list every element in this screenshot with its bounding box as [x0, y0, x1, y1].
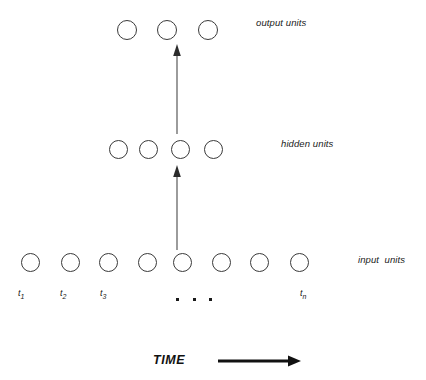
input-unit-7 [250, 253, 269, 272]
time-step-label-t1: t1 [18, 288, 24, 300]
ellipsis-dot-2 [193, 298, 196, 301]
time-step-label-t2: t2 [60, 288, 66, 300]
time-step-label-tn: tn [300, 288, 306, 300]
input-unit-5 [173, 253, 192, 272]
input-unit-1 [21, 253, 40, 272]
arrow-hidden-to-output [173, 44, 181, 134]
time-direction-arrow-icon [218, 356, 301, 367]
input-layer-label: input units [358, 254, 405, 265]
hidden-unit-4 [204, 140, 223, 159]
t3-subscript: 3 [103, 293, 107, 300]
arrows-overlay [0, 0, 426, 380]
hidden-unit-3 [171, 140, 190, 159]
t1-subscript: 1 [21, 293, 25, 300]
ellipsis-dot-3 [209, 298, 212, 301]
output-layer-label: output units [256, 17, 306, 28]
input-unit-3 [99, 253, 118, 272]
input-unit-8 [290, 253, 309, 272]
time-step-label-t3: t3 [100, 288, 106, 300]
t2-subscript: 2 [63, 293, 67, 300]
input-unit-2 [61, 253, 80, 272]
time-axis-label: TIME [153, 353, 185, 367]
hidden-layer-label: hidden units [281, 138, 333, 149]
input-unit-4 [138, 253, 157, 272]
tn-subscript: n [303, 293, 307, 300]
output-unit-1 [117, 20, 137, 40]
input-unit-6 [212, 253, 231, 272]
arrow-input-to-hidden [173, 165, 181, 250]
output-unit-3 [198, 20, 218, 40]
hidden-unit-2 [139, 140, 158, 159]
diagram-canvas: output units hidden units input units t1… [0, 0, 426, 380]
ellipsis-dot-1 [176, 298, 179, 301]
output-unit-2 [157, 20, 177, 40]
hidden-unit-1 [109, 140, 128, 159]
